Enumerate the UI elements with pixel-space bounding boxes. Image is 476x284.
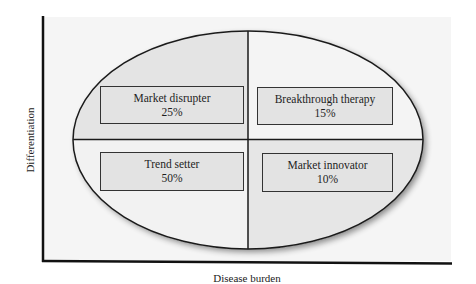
quadrant-label: Market disrupter	[101, 91, 243, 105]
quadrant-box-market-innovator: Market innovator 10%	[262, 153, 393, 192]
quadrant-label: Market innovator	[263, 158, 392, 172]
y-axis-label: Differentiation	[24, 107, 36, 172]
x-axis-label: Disease burden	[213, 272, 281, 284]
quadrant-diagram: Market disrupter 25% Breakthrough therap…	[0, 0, 476, 284]
quadrant-label: Breakthrough therapy	[258, 92, 392, 106]
quadrant-value: 15%	[258, 106, 392, 120]
quadrant-value: 50%	[101, 171, 243, 185]
diagram-canvas	[0, 0, 476, 284]
quadrant-label: Trend setter	[101, 157, 243, 171]
quadrant-value: 10%	[263, 172, 392, 186]
quadrant-box-market-disrupter: Market disrupter 25%	[100, 86, 244, 124]
quadrant-value: 25%	[101, 105, 243, 119]
quadrant-box-breakthrough-therapy: Breakthrough therapy 15%	[257, 87, 393, 125]
x-axis	[42, 261, 452, 264]
quadrant-box-trend-setter: Trend setter 50%	[100, 152, 244, 191]
